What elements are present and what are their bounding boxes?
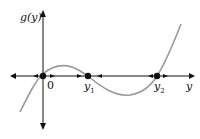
equilibrium-point-0 <box>40 73 46 79</box>
origin-label: 0 <box>47 80 54 91</box>
left-end-arrow-icon <box>10 73 16 79</box>
flow-arrow-right-icon <box>77 74 82 78</box>
g-curve <box>20 24 181 112</box>
y1-label: y1 <box>84 81 95 95</box>
flow-arrow-left-icon <box>148 74 153 78</box>
g-axis-bottom-arrow-icon <box>40 123 46 130</box>
x-axis-label: y <box>186 81 192 92</box>
flow-arrow-right-icon <box>50 74 55 78</box>
flow-arrow-left-icon <box>33 74 38 78</box>
flow-arrow-right-icon <box>163 74 168 78</box>
y1-label-sub: 1 <box>90 87 94 95</box>
y2-label-sub: 2 <box>160 87 164 95</box>
equilibrium-point-y1 <box>85 73 91 79</box>
flow-arrow-left-icon <box>97 74 102 78</box>
y2-label: y2 <box>154 81 165 95</box>
right-end-arrow-icon <box>189 73 195 79</box>
equilibrium-point-y2 <box>154 73 160 79</box>
g-axis-label: g(y) <box>20 12 42 23</box>
